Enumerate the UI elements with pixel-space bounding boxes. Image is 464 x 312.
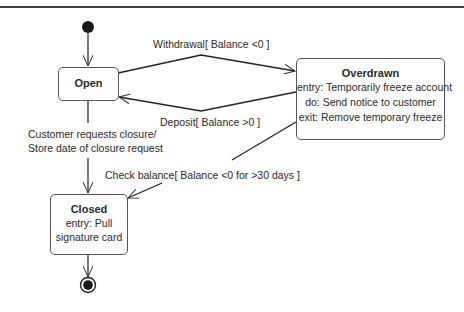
edge-overdrawn-closed: [128, 183, 162, 198]
entry-activity-cont: signature card: [51, 230, 127, 244]
edge-open-overdrawn: [118, 55, 295, 73]
label-line: Store date of closure request: [28, 141, 148, 155]
label-withdrawal: Withdrawal[ Balance <0 ]: [153, 37, 269, 51]
state-name: Closed: [51, 203, 127, 215]
initial-state-icon: [82, 21, 94, 33]
state-name: Overdrawn: [297, 67, 444, 79]
entry-activity: entry: Temporarily freeze account: [297, 80, 444, 95]
entry-activity: entry: Pull: [51, 216, 127, 230]
edge-overdrawn-open: [119, 92, 296, 111]
label-line: Customer requests closure/: [28, 127, 148, 141]
state-open: Open: [58, 67, 119, 101]
state-overdrawn: Overdrawn entry: Temporarily freeze acco…: [296, 58, 445, 140]
label-closure-request: Customer requests closure/ Store date of…: [28, 127, 148, 155]
state-closed: Closed entry: Pull signature card: [50, 194, 128, 255]
state-name: Open: [59, 77, 118, 89]
label-deposit: Deposit[ Balance >0 ]: [160, 115, 260, 129]
label-check-balance: Check balance[ Balance <0 for >30 days ]: [105, 168, 300, 182]
exit-activity: exit: Remove temporary freeze: [297, 110, 444, 125]
do-activity: do: Send notice to customer: [297, 95, 444, 110]
